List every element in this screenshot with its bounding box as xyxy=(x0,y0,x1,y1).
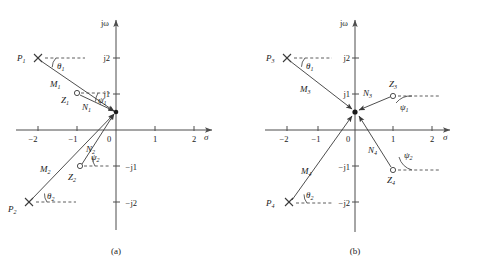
panel-a-angle-theta2-label: θ2 xyxy=(47,191,54,202)
panel-b-angle-theta1-label: θ1 xyxy=(306,61,313,72)
panel-a-real-axis xyxy=(16,126,212,131)
panel-a-vector-M1-label: M1 xyxy=(49,79,61,90)
panel-b-zero-Z3-marker xyxy=(390,93,395,98)
panel-b-ytick--j1: −j1 xyxy=(339,162,350,172)
panel-a-xtick-1: 1 xyxy=(153,134,157,144)
panel-a-ytick--j1: −j1 xyxy=(126,162,137,172)
panel-b-xtick--2: −2 xyxy=(279,134,288,144)
panel-a-ytick--j2: −j2 xyxy=(126,198,137,208)
panel-a-xtick--2: −2 xyxy=(28,134,37,144)
panel-b-y-axis-label: jω xyxy=(339,18,348,28)
panel-b-ytick-j2: j2 xyxy=(342,53,350,63)
panel-b-angle-psi2-label: ψ2 xyxy=(404,150,413,161)
panel-a-imag-axis xyxy=(113,20,120,230)
panel-a-vector-N1-label: N1 xyxy=(81,102,91,113)
panel-b-ytick-j1: j1 xyxy=(342,89,350,99)
panel-a-pole-P1-marker xyxy=(34,54,42,62)
panel-a-zero-Z2-label: Z2 xyxy=(68,172,76,183)
panel-b-xtick-1: 1 xyxy=(391,134,395,144)
panel-b-pole-P3-marker xyxy=(283,54,291,62)
figure-canvas: σ jω −2 −1 0 1 2 j2 j1 −j1 −j2 P1 θ1 M1 … xyxy=(0,0,478,267)
panel-a-pole-P2-marker xyxy=(25,198,33,206)
panel-b-pole-P4-marker xyxy=(285,198,293,206)
panel-a-ytick-j2: j2 xyxy=(102,53,110,63)
panel-a-xtick-2: 2 xyxy=(192,134,196,144)
panel-a-angle-theta1-label: θ1 xyxy=(57,61,64,72)
panel-a-vector-M2-label: M2 xyxy=(39,164,51,175)
panel-b-theta1-arc xyxy=(302,58,306,67)
panel-a-theta1-arc xyxy=(52,58,56,67)
panel-b-vector-N4 xyxy=(359,116,391,167)
panel-b-zero-Z4-label: Z4 xyxy=(387,175,395,186)
panel-a-x-axis-label: σ xyxy=(204,132,209,142)
panel-a-xtick--1: −1 xyxy=(68,134,77,144)
panel-a-zero-Z1-label: Z1 xyxy=(61,95,69,106)
panel-b-pole-P4-label: P4 xyxy=(265,198,275,209)
panel-b-xtick-0: 0 xyxy=(346,134,350,144)
panel-b-convergence-point xyxy=(352,109,357,114)
panel-a-pole-P1-label: P1 xyxy=(16,53,26,64)
panel-b-xtick-2: 2 xyxy=(430,134,434,144)
panel-a-zero-Z2-marker xyxy=(77,163,82,168)
panel-a-vector-M2 xyxy=(32,114,114,199)
panel-b-angle-theta2-label: θ2 xyxy=(306,190,313,201)
panel-b-pole-P3-label: P3 xyxy=(265,53,275,64)
panel-b-vector-M4 xyxy=(292,116,352,200)
panel-b: σ jω −2 −1 0 1 2 j2 j1 −j1 −j2 P3 θ1 M3 … xyxy=(265,18,450,256)
panel-a-y-axis-label: jω xyxy=(100,18,109,28)
panel-a-caption: (a) xyxy=(111,246,121,256)
panel-b-zero-Z3-label: Z3 xyxy=(389,79,397,90)
pole-zero-figure: σ jω −2 −1 0 1 2 j2 j1 −j1 −j2 P1 θ1 M1 … xyxy=(0,0,478,267)
panel-a: σ jω −2 −1 0 1 2 j2 j1 −j1 −j2 P1 θ1 M1 … xyxy=(7,18,212,256)
panel-a-pole-P2-label: P2 xyxy=(7,204,17,215)
panel-b-real-axis xyxy=(265,126,450,131)
panel-b-zero-Z4-marker xyxy=(390,167,395,172)
panel-a-zero-Z1-marker xyxy=(74,90,79,95)
panel-b-vector-N3-label: N3 xyxy=(362,88,372,99)
panel-b-caption: (b) xyxy=(350,246,361,256)
panel-b-vector-M4-label: M4 xyxy=(300,166,312,177)
panel-b-vector-M3-label: M3 xyxy=(299,84,311,95)
panel-b-vector-N3 xyxy=(359,97,390,110)
panel-b-angle-psi1-label: ψ1 xyxy=(400,102,409,113)
panel-b-imag-axis xyxy=(352,20,359,232)
panel-b-vector-N4-label: N4 xyxy=(367,145,377,156)
panel-a-convergence-point xyxy=(114,110,119,115)
panel-b-xtick--1: −1 xyxy=(311,134,320,144)
panel-a-xtick-0: 0 xyxy=(107,134,111,144)
panel-b-ytick--j2: −j2 xyxy=(339,198,350,208)
panel-b-x-axis-label: σ xyxy=(443,132,448,142)
